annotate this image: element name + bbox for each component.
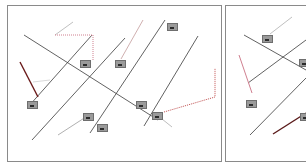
leader-line: [239, 55, 252, 93]
image-tag[interactable]: [27, 101, 38, 109]
leader-line-dotted: [55, 35, 93, 60]
image-tag[interactable]: [152, 112, 163, 120]
image-tag[interactable]: [136, 101, 147, 109]
line: [244, 35, 306, 70]
leader-line: [33, 80, 50, 82]
leader-line: [20, 62, 38, 97]
image-tag[interactable]: [167, 23, 178, 31]
diagram-lines: [0, 0, 306, 167]
leader-line: [270, 17, 292, 34]
line: [32, 38, 125, 140]
image-tag[interactable]: [246, 100, 257, 108]
image-tag[interactable]: [80, 60, 91, 68]
leader-line-dotted: [164, 68, 215, 112]
line: [250, 78, 306, 135]
image-tag[interactable]: [83, 113, 94, 121]
image-tag[interactable]: [300, 113, 306, 121]
image-tag[interactable]: [262, 35, 273, 43]
leader-line: [55, 22, 73, 35]
image-tag[interactable]: [97, 124, 108, 132]
leader-line: [121, 20, 143, 59]
image-tag[interactable]: [299, 59, 306, 67]
image-tag[interactable]: [115, 60, 126, 68]
line: [248, 40, 306, 83]
